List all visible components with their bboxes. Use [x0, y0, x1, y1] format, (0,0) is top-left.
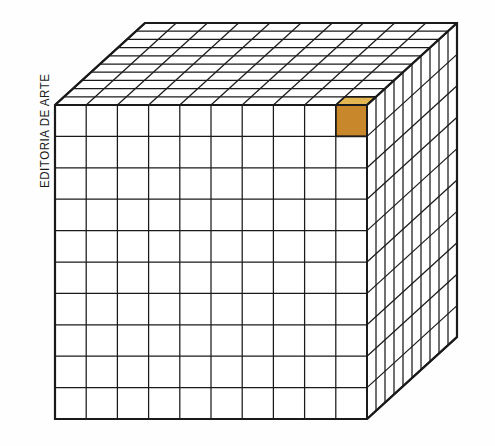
figure-canvas: EDITORIA DE ARTE [0, 0, 495, 446]
highlighted-cube-front-face [336, 105, 367, 136]
cube-diagram [0, 0, 495, 446]
